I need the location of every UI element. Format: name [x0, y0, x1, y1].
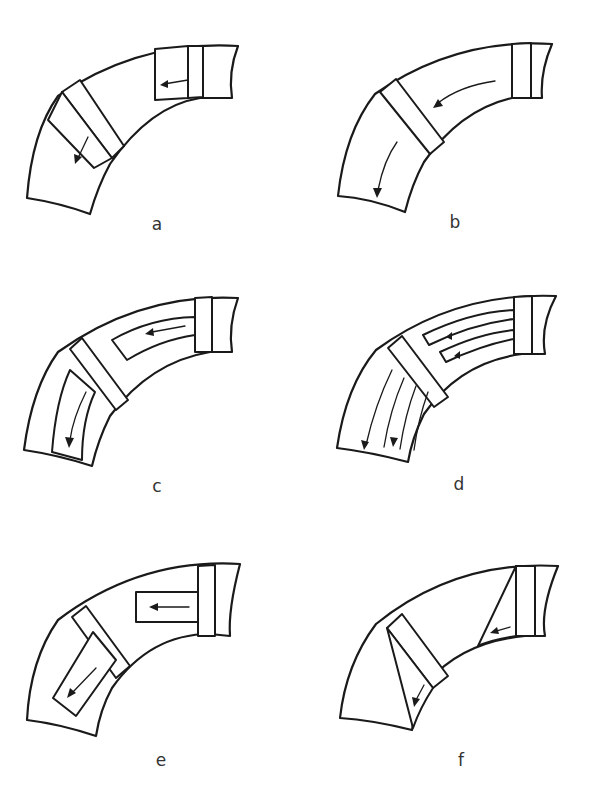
- panel-label-c: c: [142, 476, 172, 496]
- panel-label-a: a: [142, 214, 172, 234]
- panel-label-e: e: [146, 750, 176, 770]
- panel-label-d: d: [444, 474, 474, 494]
- panel-label-f: f: [446, 750, 476, 770]
- panel-label-b: b: [440, 212, 470, 232]
- panel-f-diagram: [0, 0, 595, 793]
